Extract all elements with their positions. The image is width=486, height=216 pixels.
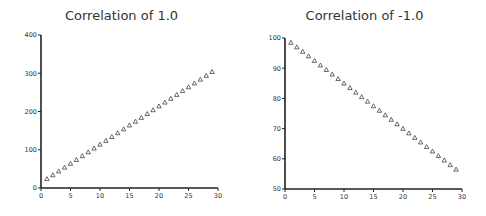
x-tick-label: 10	[96, 192, 104, 200]
data-point-triangle	[80, 154, 84, 158]
data-point-triangle	[407, 131, 411, 135]
data-point-triangle	[395, 122, 399, 126]
data-point-triangle	[68, 161, 72, 165]
data-point-triangle	[413, 135, 417, 139]
data-point-triangle	[389, 117, 393, 121]
y-tick-label: 70	[273, 125, 281, 133]
data-point-triangle	[430, 149, 434, 153]
data-point-triangle	[365, 99, 369, 103]
x-tick-label: 10	[340, 193, 348, 201]
data-point-triangle	[312, 58, 316, 62]
x-tick-label: 0	[283, 193, 287, 201]
data-point-triangle	[318, 63, 322, 67]
data-point-triangle	[301, 49, 305, 53]
data-point-triangle	[110, 135, 114, 139]
chart-positive-correlation: Correlation of 1.0 051015202530010020030…	[0, 0, 243, 216]
x-tick-label: 30	[214, 192, 222, 200]
data-point-triangle	[175, 92, 179, 96]
data-point-triangle	[442, 158, 446, 162]
x-tick-label: 20	[155, 192, 163, 200]
data-point-triangle	[204, 73, 208, 77]
data-point-triangle	[454, 167, 458, 171]
data-point-triangle	[383, 113, 387, 117]
data-point-triangle	[198, 77, 202, 81]
plot-area: 0510152025305060708090100	[243, 0, 486, 216]
y-tick-label: 100	[25, 146, 37, 154]
data-point-triangle	[354, 90, 358, 94]
y-tick-label: 90	[273, 65, 281, 73]
data-point-triangle	[45, 177, 49, 181]
data-point-triangle	[151, 108, 155, 112]
y-tick-label: 50	[273, 185, 281, 193]
plot-area: 0510152025300100200300400	[0, 0, 243, 216]
data-point-triangle	[51, 173, 55, 177]
data-point-triangle	[127, 123, 131, 127]
x-tick-label: 30	[458, 193, 466, 201]
data-point-triangle	[121, 127, 125, 131]
data-point-triangle	[86, 150, 90, 154]
data-point-triangle	[436, 154, 440, 158]
data-point-triangle	[163, 100, 167, 104]
data-point-triangle	[133, 119, 137, 123]
data-point-triangle	[360, 95, 364, 99]
data-point-triangle	[157, 104, 161, 108]
x-tick-label: 0	[39, 192, 43, 200]
data-point-triangle	[180, 89, 184, 93]
data-point-triangle	[289, 40, 293, 44]
y-tick-label: 80	[273, 95, 281, 103]
data-point-triangle	[139, 115, 143, 119]
x-tick-label: 5	[68, 192, 72, 200]
data-point-triangle	[98, 142, 102, 146]
data-point-triangle	[74, 157, 78, 161]
data-point-triangle	[330, 72, 334, 76]
y-tick-label: 60	[273, 155, 281, 163]
data-point-triangle	[295, 45, 299, 49]
x-tick-label: 5	[312, 193, 316, 201]
x-tick-label: 15	[125, 192, 133, 200]
data-point-triangle	[401, 126, 405, 130]
x-tick-label: 20	[399, 193, 407, 201]
data-point-triangle	[186, 85, 190, 89]
y-tick-label: 100	[269, 34, 281, 42]
data-point-triangle	[348, 86, 352, 90]
data-point-triangle	[210, 70, 214, 74]
y-tick-label: 0	[33, 184, 37, 192]
x-tick-label: 25	[428, 193, 436, 201]
data-point-triangle	[419, 140, 423, 144]
x-tick-label: 15	[369, 193, 377, 201]
data-point-triangle	[57, 169, 61, 173]
x-tick-label: 25	[184, 192, 192, 200]
y-tick-label: 200	[25, 108, 37, 116]
data-point-triangle	[306, 54, 310, 58]
data-point-triangle	[192, 81, 196, 85]
data-point-triangle	[104, 138, 108, 142]
data-point-triangle	[92, 146, 96, 150]
data-point-triangle	[145, 112, 149, 116]
data-point-triangle	[62, 165, 66, 169]
data-point-triangle	[116, 131, 120, 135]
data-point-triangle	[448, 163, 452, 167]
data-point-triangle	[342, 81, 346, 85]
y-tick-label: 300	[25, 70, 37, 78]
y-tick-label: 400	[25, 31, 37, 39]
data-point-triangle	[324, 68, 328, 72]
data-point-triangle	[424, 145, 428, 149]
data-point-triangle	[169, 96, 173, 100]
data-point-triangle	[371, 104, 375, 108]
data-point-triangle	[336, 77, 340, 81]
data-point-triangle	[377, 108, 381, 112]
chart-negative-correlation: Correlation of -1.0 05101520253050607080…	[243, 0, 486, 216]
